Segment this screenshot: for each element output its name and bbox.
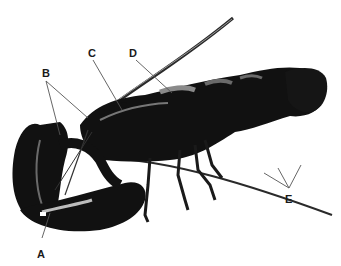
label-d: D — [129, 47, 137, 59]
label-e: E — [285, 193, 292, 205]
walking-leg — [145, 158, 150, 222]
lobster-illustration — [0, 0, 341, 266]
label-a: A — [37, 248, 45, 260]
walking-leg — [178, 150, 188, 210]
label-b: B — [42, 67, 50, 79]
lobster-diagram: A B C D E — [0, 0, 341, 266]
pointer-c — [93, 60, 122, 110]
pointer-d — [136, 60, 172, 93]
pointer-b2 — [46, 81, 88, 118]
label-c: C — [88, 47, 96, 59]
pointer-e3 — [289, 165, 301, 188]
walking-leg — [205, 140, 222, 178]
